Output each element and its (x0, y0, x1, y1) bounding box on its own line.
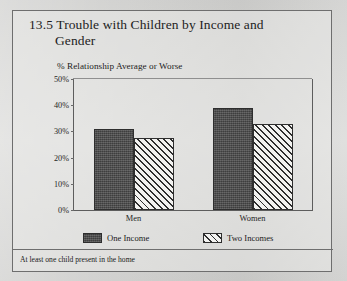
y-axis-tick-mark (71, 105, 74, 106)
y-axis-tick-mark (71, 79, 74, 80)
legend-label: One Income (107, 233, 149, 243)
x-axis-label-women: Women (240, 214, 266, 223)
y-axis-tick-mark (71, 158, 74, 159)
legend-item-two-incomes[interactable]: Two Incomes (203, 233, 273, 243)
bar-group-women: Women (213, 79, 293, 210)
y-axis-tick-label: 30% (54, 127, 69, 136)
legend-item-one-income[interactable]: One Income (83, 233, 149, 243)
y-axis-tick-mark (71, 184, 74, 185)
legend-swatch-two-incomes-icon (203, 233, 222, 243)
legend-swatch-one-income-icon (83, 233, 102, 243)
x-axis-label-men: Men (126, 214, 141, 223)
chart-legend: One IncomeTwo Incomes (73, 233, 311, 247)
y-axis-tick-mark (71, 210, 74, 211)
footnote-band: At least one child present in the home (13, 249, 333, 271)
figure-frame: 13.5 Trouble with Children by Income and… (12, 10, 332, 272)
bar-group-men: Men (94, 79, 174, 210)
bar-women-two-incomes (253, 124, 293, 210)
scanned-page: 13.5 Trouble with Children by Income and… (0, 0, 347, 281)
y-axis-tick-label: 20% (54, 153, 69, 162)
y-axis-tick-label: 10% (54, 179, 69, 188)
bar-men-two-incomes (134, 138, 174, 210)
y-axis-tick-mark (71, 131, 74, 132)
plot-area: 0%10%20%30%40%50%MenWomen (73, 79, 313, 211)
legend-label: Two Incomes (227, 233, 273, 243)
bar-men-one-income (94, 129, 134, 210)
y-axis-tick-label: 50% (54, 75, 69, 84)
y-axis-tick-label: 40% (54, 101, 69, 110)
bar-women-one-income (213, 108, 253, 210)
footnote-text: At least one child present in the home (20, 255, 135, 264)
y-axis-tick-label: 0% (58, 206, 69, 215)
